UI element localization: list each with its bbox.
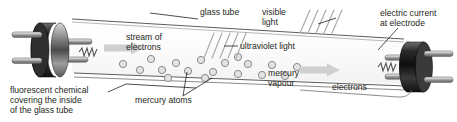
mercury-atom [172, 59, 179, 66]
leader-mercury-atom-2 [183, 78, 212, 96]
label-ultraviolet-light: ultraviolet light [240, 41, 296, 51]
electrode-pin-lower [12, 58, 42, 63]
label-visible-light-line1: visible [262, 7, 286, 17]
visible-light-ray [332, 10, 342, 33]
label-stream-line1: stream of [126, 32, 162, 42]
mercury-atom [119, 60, 126, 67]
mercury-atom [244, 60, 251, 67]
label-stream-line2: electrons [126, 42, 161, 52]
mercury-atom [184, 67, 191, 74]
label-electric-current-line2: at electrode [380, 18, 425, 28]
mercury-atom [136, 66, 143, 73]
label-fluorescent-line3: of the glass tube [10, 105, 73, 115]
visible-light-rays-group [300, 10, 342, 33]
leader-fluorescent-chemical [108, 84, 126, 92]
label-visible-light-line2: light [262, 17, 278, 27]
mercury-atom [221, 59, 228, 66]
leader-glass-tube [150, 13, 198, 19]
electrode-pin-upper [12, 32, 42, 37]
mercury-atom [164, 74, 171, 81]
label-electric-current-line1: electric current [380, 8, 437, 18]
electrode-pin-right-upper [424, 51, 453, 56]
label-electrons: electrons [332, 82, 367, 92]
electrode-cap-face-right [416, 42, 433, 92]
label-fluorescent-line1: fluorescent chemical [10, 85, 88, 95]
mercury-atom [158, 66, 165, 73]
visible-light-ray [300, 10, 310, 33]
leader-fluorescent-chemical-2 [126, 84, 196, 88]
label-mercury-vapour-line2: vapour [268, 78, 294, 88]
label-glass-tube: glass tube [200, 7, 239, 17]
mercury-atom [258, 71, 265, 78]
label-fluorescent-line2: covering the inside [10, 95, 82, 105]
diagram-canvas: glass tube visible light electric curren… [0, 0, 457, 122]
electrode-collar [51, 23, 69, 77]
mercury-atom [234, 70, 241, 77]
fluorescent-tube-diagram: glass tube visible light electric curren… [0, 0, 457, 122]
mercury-atom [147, 55, 154, 62]
visible-light-ray [308, 10, 318, 33]
label-mercury-atoms: mercury atoms [135, 95, 192, 105]
label-mercury-vapour-line1: mercury [268, 68, 300, 78]
electrode-pin-right-lower [424, 77, 453, 82]
mercury-atom [209, 68, 216, 75]
electrode-cap-face [31, 23, 49, 77]
